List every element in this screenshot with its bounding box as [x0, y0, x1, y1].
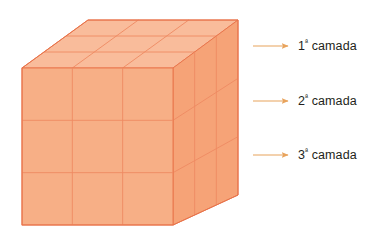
cube-front-face: [22, 68, 173, 225]
label-layer-2-ordinal: ª: [305, 93, 308, 102]
label-layer-1-number: 1: [298, 39, 305, 53]
label-layer-2: 2ª camada: [298, 95, 357, 108]
label-layer-3-word: camada: [312, 148, 357, 162]
cube-diagram: [0, 0, 376, 238]
label-layer-2-word: camada: [312, 94, 357, 108]
label-layer-1: 1ª camada: [298, 40, 357, 53]
label-layer-3-ordinal: ª: [305, 147, 308, 156]
label-layer-3: 3ª camada: [298, 149, 357, 162]
label-layer-1-ordinal: ª: [305, 38, 308, 47]
label-layer-2-number: 2: [298, 94, 305, 108]
figure-canvas: 1ª camada 2ª camada 3ª camada: [0, 0, 376, 238]
label-layer-1-word: camada: [312, 39, 357, 53]
arrow-group: [253, 46, 288, 155]
label-layer-3-number: 3: [298, 148, 305, 162]
